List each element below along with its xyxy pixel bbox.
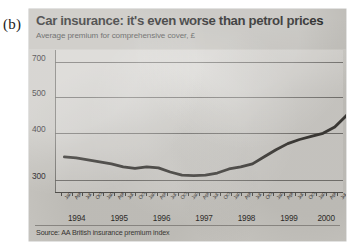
gridline-300 <box>55 180 343 181</box>
x-tick-label-3: Oct <box>94 191 103 201</box>
panel-label: (b) <box>3 16 21 33</box>
year-label-1994: 1994 <box>68 214 85 223</box>
figure-panel: (b) Car insurance: it's even worse than … <box>0 0 351 250</box>
y-tick-label-400: 400 <box>32 124 45 134</box>
source-divider <box>35 225 340 226</box>
x-tick-label-2: Jul <box>84 192 93 201</box>
y-tick-label-500: 500 <box>32 88 45 98</box>
year-label-1997: 1997 <box>195 214 212 223</box>
chart-title: Car insurance: it's even worse than petr… <box>36 13 323 28</box>
chart-subtitle: Average premium for comprehensive cover,… <box>36 31 195 40</box>
year-label-1995: 1995 <box>110 214 127 223</box>
year-label-1999: 1999 <box>280 214 297 223</box>
year-label-1996: 1996 <box>153 214 170 223</box>
gridline-500 <box>55 97 343 98</box>
plot-area <box>55 50 343 193</box>
y-axis <box>55 50 56 193</box>
x-tick-23 <box>305 193 306 196</box>
x-tick-15 <box>220 193 221 196</box>
x-tick-label-18: Jul <box>254 192 263 201</box>
year-label-1998: 1998 <box>238 214 255 223</box>
gridline-700 <box>55 62 343 63</box>
x-tick-label-10: Jul <box>169 192 178 201</box>
x-tick-7 <box>135 193 136 196</box>
year-label-2000: 2000 <box>317 214 334 223</box>
x-tick-label-14: Jul <box>211 192 220 201</box>
gridline-400 <box>55 133 343 134</box>
source-note: Source: AA British insurance premium ind… <box>36 228 170 237</box>
x-tick-0 <box>61 193 62 196</box>
x-tick-label-26: Jul <box>339 192 347 201</box>
x-tick-label-6: Jul <box>126 192 135 201</box>
y-tick-label-700: 700 <box>32 53 45 63</box>
x-tick-label-22: Jul <box>296 192 305 201</box>
y-tick-label-300: 300 <box>32 171 45 181</box>
newspaper-clipping: Car insurance: it's even worse than petr… <box>29 9 346 241</box>
